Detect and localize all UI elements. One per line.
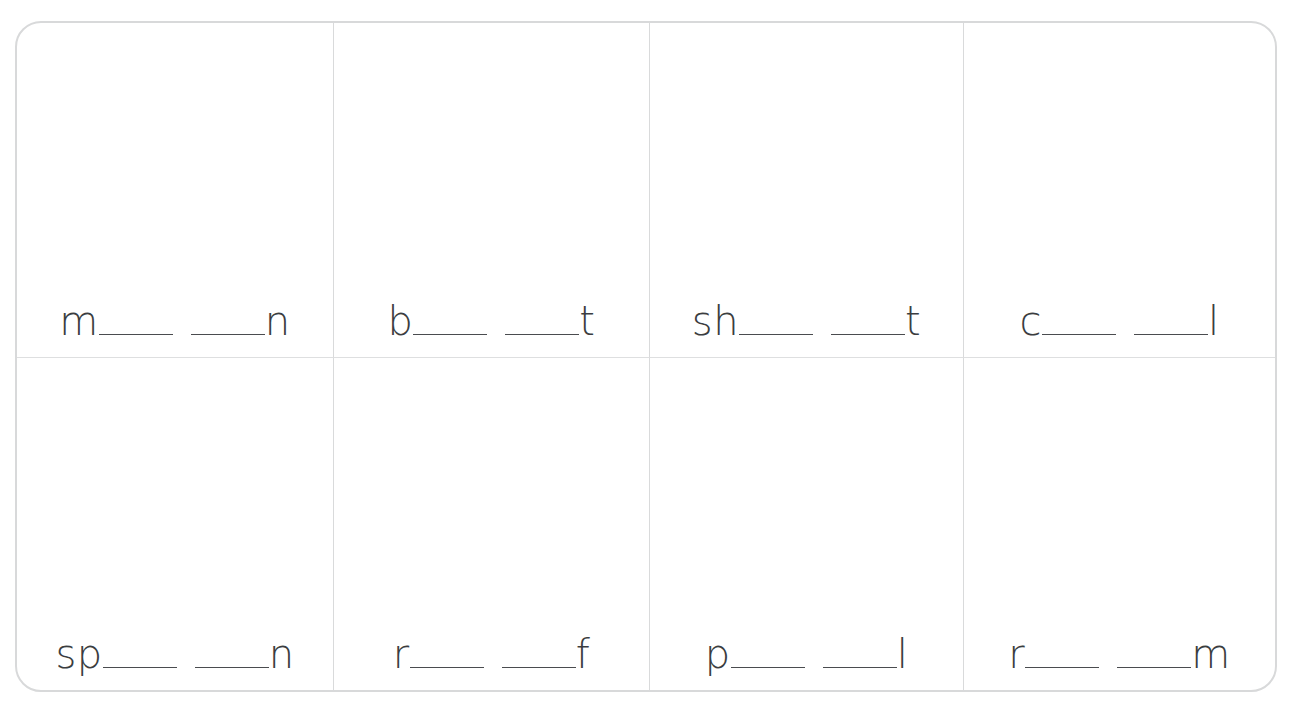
blank-line-second[interactable] [1117, 667, 1191, 668]
coda-letters: t [579, 301, 595, 341]
blank-line-second[interactable] [505, 334, 579, 335]
coda-letters: l [897, 634, 909, 674]
worksheet-cell[interactable]: m n [17, 23, 333, 357]
onset-letters: c [1019, 301, 1042, 341]
worksheet-cell[interactable]: r f [333, 357, 649, 691]
worksheet-cell[interactable]: b t [333, 23, 649, 357]
coda-letters: f [576, 634, 591, 674]
worksheet-cell[interactable]: p l [649, 357, 963, 691]
blank-line-first[interactable] [739, 334, 813, 335]
onset-letters: b [387, 301, 413, 341]
onset-letters: r [393, 634, 410, 674]
worksheet-cell[interactable]: sp n [17, 357, 333, 691]
coda-letters: m [1191, 634, 1230, 674]
coda-letters: l [1208, 301, 1220, 341]
blank-line-second[interactable] [823, 667, 897, 668]
worksheet-cell[interactable]: r m [963, 357, 1275, 691]
blank-line-second[interactable] [195, 667, 269, 668]
coda-letters: t [905, 301, 921, 341]
word-prompt: sh t [692, 301, 921, 341]
worksheet-grid: m n b t sh t c [17, 23, 1275, 690]
blank-line-second[interactable] [502, 667, 576, 668]
coda-letters: n [265, 301, 291, 341]
onset-letters: r [1008, 634, 1025, 674]
blank-line-first[interactable] [99, 334, 173, 335]
word-prompt: b t [387, 301, 595, 341]
word-prompt: sp n [55, 634, 294, 674]
worksheet-cell[interactable]: sh t [649, 23, 963, 357]
coda-letters: n [269, 634, 295, 674]
word-prompt: r m [1008, 634, 1230, 674]
blank-line-first[interactable] [1025, 667, 1099, 668]
word-prompt: c l [1019, 301, 1219, 341]
word-prompt: m n [59, 301, 290, 341]
onset-letters: m [59, 301, 98, 341]
blank-line-first[interactable] [410, 667, 484, 668]
onset-letters: sh [692, 301, 739, 341]
worksheet-frame: m n b t sh t c [15, 21, 1277, 692]
blank-line-first[interactable] [413, 334, 487, 335]
word-prompt: p l [705, 634, 909, 674]
blank-line-second[interactable] [191, 334, 265, 335]
word-prompt: r f [393, 634, 591, 674]
blank-line-first[interactable] [1042, 334, 1116, 335]
blank-line-second[interactable] [831, 334, 905, 335]
onset-letters: sp [55, 634, 102, 674]
blank-line-first[interactable] [731, 667, 805, 668]
blank-line-second[interactable] [1134, 334, 1208, 335]
worksheet-cell[interactable]: c l [963, 23, 1275, 357]
onset-letters: p [705, 634, 731, 674]
blank-line-first[interactable] [103, 667, 177, 668]
